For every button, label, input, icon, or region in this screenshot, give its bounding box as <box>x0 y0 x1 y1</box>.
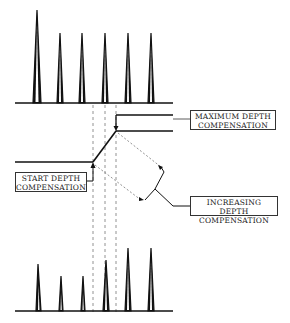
increasing-arrow-bottom-icon <box>139 197 144 201</box>
start-arrow-icon <box>91 162 96 168</box>
depth-compensation-diagram <box>0 0 290 323</box>
increasing-label-line1: INCREASING DEPTH <box>191 198 277 216</box>
top-trace <box>15 10 173 103</box>
increasing-depth-label: INCREASING DEPTH COMPENSATION <box>190 196 278 216</box>
maximum-label-line2: COMPENSATION <box>191 121 275 130</box>
start-label-line2: COMPENSATION <box>16 183 86 192</box>
increasing-label-line2: COMPENSATION <box>191 216 277 225</box>
compensation-curve <box>15 115 173 162</box>
start-depth-label: START DEPTH COMPENSATION <box>15 172 87 192</box>
start-label-line1: START DEPTH <box>16 174 86 183</box>
maximum-label-line1: MAXIMUM DEPTH <box>191 112 275 121</box>
maximum-depth-label: MAXIMUM DEPTH COMPENSATION <box>190 110 276 130</box>
max-arrow-icon <box>114 126 119 131</box>
